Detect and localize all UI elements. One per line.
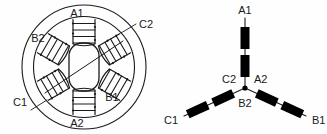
stator-pole-b1 xyxy=(37,67,72,101)
wye-label-c1: C1 xyxy=(164,114,178,126)
motor-label-b2: B2 xyxy=(31,32,44,44)
phase-c-coil-2 xyxy=(186,101,210,118)
wye-winding-svg: A1 C2 A2 B2 C1 B1 xyxy=(164,0,327,134)
figure-container: A1 C2 B1 A2 C1 B2 xyxy=(0,0,327,134)
stator-pole-b2 xyxy=(96,33,131,67)
c1-leader-line xyxy=(31,100,47,110)
wye-label-b1: B1 xyxy=(312,114,325,126)
phase-b-coil-2 xyxy=(280,101,304,118)
motor-label-a1: A1 xyxy=(70,7,83,19)
motor-label-c1: C1 xyxy=(13,96,27,108)
wye-label-a1: A1 xyxy=(238,4,251,16)
stator-pole-a2 xyxy=(72,88,96,114)
phase-a-coil-2 xyxy=(241,55,250,77)
wye-winding-panel: A1 C2 A2 B2 C1 B1 xyxy=(164,0,327,134)
phase-a-coil-1 xyxy=(241,27,250,49)
wye-label-c2: C2 xyxy=(222,73,236,85)
wye-label-a2: A2 xyxy=(254,73,267,85)
motor-label-b1: B1 xyxy=(105,91,118,103)
phase-b-coil-1 xyxy=(255,89,279,106)
motor-label-a2: A2 xyxy=(70,117,83,129)
stator-pole-a1 xyxy=(72,20,96,46)
neutral-junction-node xyxy=(242,85,247,90)
phase-c-coil-1 xyxy=(211,89,235,106)
motor-label-c2: C2 xyxy=(139,18,153,30)
motor-cross-section-svg: A1 C2 B1 A2 C1 B2 xyxy=(0,0,164,134)
motor-cross-section-panel: A1 C2 B1 A2 C1 B2 xyxy=(0,0,164,134)
rotor-magnetization-axis xyxy=(45,41,123,93)
wye-label-b2: B2 xyxy=(238,97,251,109)
c2-leader-line xyxy=(121,24,136,33)
